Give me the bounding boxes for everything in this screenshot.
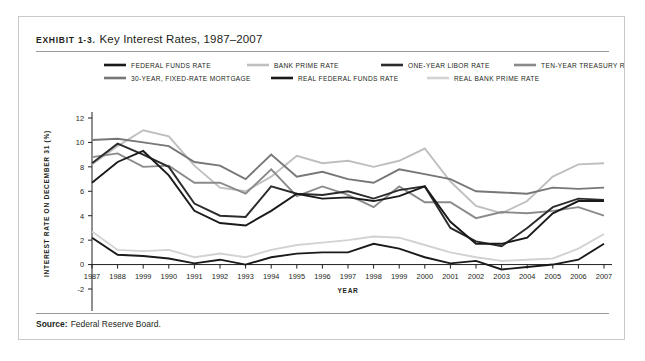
x-tick-label: 2002 [468,272,484,281]
x-tick-label: 1993 [237,272,253,281]
legend-item: ONE-YEAR LIBOR RATE [381,62,490,69]
legend-item: 30-YEAR, FIXED-RATE MORTGAGE [104,75,251,82]
x-tick-label: 1988 [109,272,125,281]
legend-label: 30-YEAR, FIXED-RATE MORTGAGE [131,75,251,82]
exhibit-header: Exhibit 1-3.Key Interest Rates, 1987–200… [36,29,596,51]
footer-divider [36,313,609,314]
x-tick-label: 1992 [212,272,228,281]
legend-label: FEDERAL FUNDS RATE [131,62,211,69]
series-line [92,232,604,261]
exhibit-tag: Exhibit 1-3. [36,35,96,45]
chart-region: FEDERAL FUNDS RATEBANK PRIME RATEONE-YEA… [19,53,624,311]
x-tick-label: 1999 [135,272,151,281]
y-tick-label: 12 [76,114,84,123]
y-tick-label: -2 [77,285,84,294]
y-axis-title: INTEREST RATE ON DECEMBER 31 (%) [43,130,51,277]
page-title: Key Interest Rates, 1987–2007 [100,33,263,45]
legend-item: FEDERAL FUNDS RATE [104,62,211,69]
x-tick-label: 1991 [186,272,202,281]
x-axis-title: YEAR [337,287,358,294]
legend-label: ONE-YEAR LIBOR RATE [408,62,490,69]
x-tick-label: 1994 [263,272,279,281]
x-tick-label: 2004 [519,272,535,281]
legend-label: REAL FEDERAL FUNDS RATE [298,75,399,82]
series-line [92,130,604,213]
y-tick-label: 2 [80,236,84,245]
x-tick-label: 1995 [289,272,305,281]
legend-item: BANK PRIME RATE [247,62,339,69]
x-tick-label: 1987 [84,272,100,281]
exhibit-card: Exhibit 1-3.Key Interest Rates, 1987–200… [18,16,625,340]
legend-item: TEN-YEAR TREASURY RATE [514,62,624,69]
y-tick-label: 0 [80,260,84,269]
x-tick-label: 2003 [493,272,509,281]
legend-item: REAL FEDERAL FUNDS RATE [271,75,399,82]
x-tick-label: 1996 [314,272,330,281]
x-tick-label: 1990 [161,272,177,281]
source-text: Federal Reserve Board. [71,319,161,329]
x-tick-label: 2007 [596,272,612,281]
y-tick-label: 6 [80,187,84,196]
x-tick-label: 1999 [391,272,407,281]
x-tick-label: 2006 [570,272,586,281]
x-tick-label: 1997 [340,272,356,281]
y-tick-label: 10 [76,138,84,147]
y-tick-label: 8 [80,163,84,172]
source-label: Source: [36,319,68,329]
legend-label: BANK PRIME RATE [274,62,339,69]
y-tick-label: 4 [80,212,84,221]
x-tick-label: 2000 [417,272,433,281]
x-tick-label: 2001 [442,272,458,281]
series-line [92,153,604,218]
legend-item: REAL BANK PRIME RATE [427,75,540,82]
interest-rates-line-chart: FEDERAL FUNDS RATEBANK PRIME RATEONE-YEA… [19,53,624,311]
header-divider [36,51,609,52]
legend-label: REAL BANK PRIME RATE [454,75,540,82]
x-tick-label: 1998 [365,272,381,281]
source-note: Source:Federal Reserve Board. [36,319,161,329]
legend-label: TEN-YEAR TREASURY RATE [541,62,624,69]
x-tick-label: 2005 [545,272,561,281]
